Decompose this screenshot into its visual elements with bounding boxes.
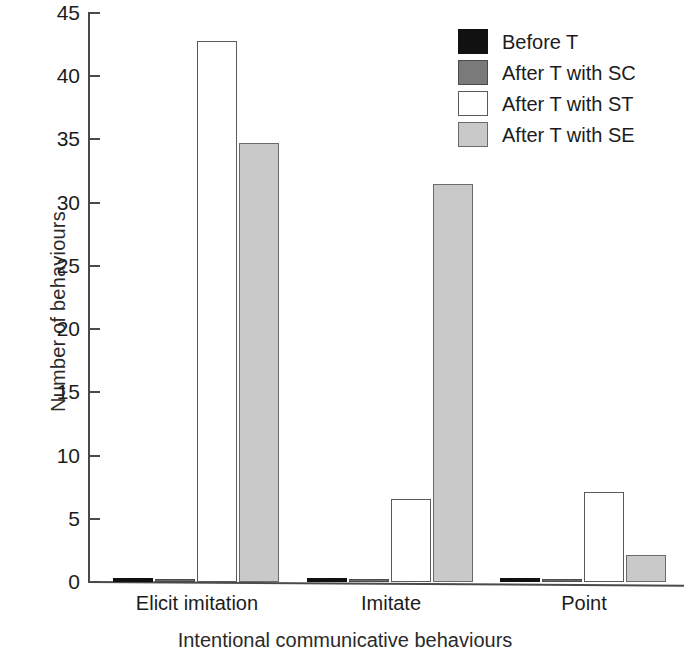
y-axis-tick-label: 40 — [30, 65, 80, 86]
y-axis-tick-label: 0 — [30, 571, 80, 592]
bar — [626, 555, 666, 582]
y-axis-tick-label: 35 — [30, 128, 80, 149]
y-axis-tick-label: 5 — [30, 508, 80, 529]
bar — [391, 499, 431, 582]
x-axis-title: Intentional communicative behaviours — [0, 629, 690, 651]
x-axis-category-label: Elicit imitation — [93, 592, 301, 615]
legend-swatch-icon — [458, 91, 488, 116]
y-axis-tick-label: 45 — [30, 2, 80, 23]
legend-item-label: After T with SE — [502, 125, 635, 145]
x-axis-category-label: Point — [480, 592, 688, 615]
legend-item-label: Before T — [502, 32, 578, 52]
y-axis-tick — [88, 202, 100, 204]
legend-item-label: After T with SC — [502, 63, 636, 83]
legend-item: After T with SC — [458, 57, 636, 88]
y-axis-tick — [88, 138, 100, 140]
y-axis-tick — [88, 455, 100, 457]
legend-item: After T with ST — [458, 88, 636, 119]
y-axis-tick — [88, 518, 100, 520]
y-axis-tick-label: 10 — [30, 445, 80, 466]
y-axis-tick — [88, 265, 100, 267]
legend-swatch-icon — [458, 60, 488, 85]
legend-item: After T with SE — [458, 119, 636, 150]
y-axis-tick-label: 25 — [30, 255, 80, 276]
bar — [584, 492, 624, 582]
y-axis-tick-label: 30 — [30, 192, 80, 213]
legend-swatch-icon — [458, 122, 488, 147]
chart-legend: Before TAfter T with SCAfter T with STAf… — [458, 26, 636, 150]
bar — [500, 578, 540, 582]
bar — [307, 578, 347, 582]
bar — [239, 143, 279, 582]
y-axis-tick — [88, 391, 100, 393]
y-axis-tick — [88, 12, 100, 14]
legend-item-label: After T with ST — [502, 94, 634, 114]
y-axis-line — [88, 13, 90, 583]
bar — [113, 578, 153, 582]
bar — [349, 579, 389, 582]
y-axis-tick-label: 15 — [30, 381, 80, 402]
x-axis-category-label: Imitate — [287, 592, 495, 615]
legend-item: Before T — [458, 26, 636, 57]
y-axis-tick — [88, 328, 100, 330]
y-axis-tick — [88, 581, 100, 583]
y-axis-tick — [88, 75, 100, 77]
bar — [197, 41, 237, 582]
legend-swatch-icon — [458, 29, 488, 54]
bar — [542, 579, 582, 582]
bar — [155, 579, 195, 582]
y-axis-tick-label: 20 — [30, 318, 80, 339]
bar — [433, 184, 473, 582]
